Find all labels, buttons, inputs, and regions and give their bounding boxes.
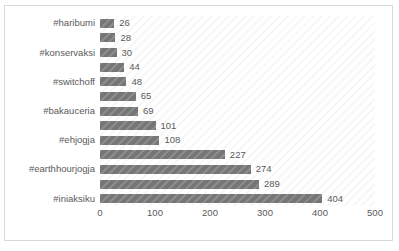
bar[interactable] [100, 121, 156, 130]
bar-value-label: 227 [230, 150, 246, 160]
bar-row[interactable]: 26 [100, 19, 375, 28]
bar-value-label: 101 [161, 121, 177, 131]
bar[interactable] [100, 77, 126, 86]
bar[interactable] [100, 180, 259, 189]
value-axis-tick: 0 [97, 208, 102, 218]
bar-chart-figure: #haribumi#konservaksi#switchoff#bakaucer… [0, 0, 399, 251]
bar-row[interactable]: 65 [100, 92, 375, 101]
bar[interactable] [100, 194, 322, 203]
bar-value-label: 404 [327, 194, 343, 204]
bar-row[interactable]: 404 [100, 194, 375, 203]
category-label: #iniaksiku [53, 194, 95, 204]
bar-row[interactable]: 69 [100, 107, 375, 116]
bar-value-label: 28 [120, 33, 131, 43]
bar-row[interactable]: 274 [100, 165, 375, 174]
bar[interactable] [100, 107, 138, 116]
bars-layer: 26283044486569101108227274289404 [100, 16, 375, 206]
bar[interactable] [100, 63, 124, 72]
value-axis-tick: 500 [367, 208, 383, 218]
value-axis-tick: 300 [257, 208, 273, 218]
category-label: #earthhourjogja [29, 164, 95, 174]
category-label: #bakauceria [43, 106, 95, 116]
value-axis-tick: 200 [202, 208, 218, 218]
category-label: #switchoff [53, 77, 95, 87]
bar-row[interactable]: 44 [100, 63, 375, 72]
bar-row[interactable]: 227 [100, 150, 375, 159]
value-axis-tick: 100 [147, 208, 163, 218]
bar-value-label: 289 [264, 179, 280, 189]
category-label: #konservaksi [40, 48, 95, 58]
bar-value-label: 274 [256, 165, 272, 175]
bar-value-label: 26 [119, 19, 130, 29]
bar-value-label: 108 [164, 135, 180, 145]
bar[interactable] [100, 92, 136, 101]
bar-row[interactable]: 101 [100, 121, 375, 130]
category-label: #ehjogja [59, 135, 95, 145]
bar[interactable] [100, 150, 225, 159]
bar[interactable] [100, 19, 114, 28]
bar[interactable] [100, 165, 251, 174]
bar-value-label: 30 [122, 48, 133, 58]
bar-row[interactable]: 108 [100, 136, 375, 145]
bar-row[interactable]: 289 [100, 180, 375, 189]
bar-value-label: 65 [141, 92, 152, 102]
bar-value-label: 69 [143, 106, 154, 116]
bar[interactable] [100, 33, 115, 42]
value-axis-tick: 400 [312, 208, 328, 218]
category-axis-labels: #haribumi#konservaksi#switchoff#bakaucer… [0, 16, 95, 206]
bar[interactable] [100, 136, 159, 145]
bar-value-label: 44 [129, 62, 140, 72]
bar-row[interactable]: 48 [100, 77, 375, 86]
bar[interactable] [100, 48, 117, 57]
bar-value-label: 48 [131, 77, 142, 87]
category-label: #haribumi [53, 18, 95, 28]
value-axis: 0100200300400500 [100, 208, 375, 230]
bar-row[interactable]: 30 [100, 48, 375, 57]
bar-row[interactable]: 28 [100, 33, 375, 42]
